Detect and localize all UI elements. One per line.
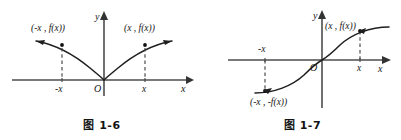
- x-axis-label: x: [181, 84, 185, 94]
- y-axis-arrow-icon: [100, 11, 108, 20]
- marked-point-right: [143, 43, 147, 47]
- point-label-left: (-x , f(x)): [31, 24, 65, 34]
- y-axis-arrow-icon: [318, 10, 326, 19]
- origin-label: O: [310, 63, 317, 73]
- x-axis-arrow-icon: [186, 76, 194, 84]
- figure-1-7-caption: 图 1-7: [202, 116, 401, 132]
- point-label-lower-left: (-x , -f(x)): [250, 98, 287, 108]
- figure-1-6-caption: 图 1-6: [2, 116, 202, 132]
- x-axis-label: x: [378, 64, 382, 74]
- x-tick-label-left: -x: [258, 45, 265, 55]
- point-label-right: (x , f(x)): [124, 24, 155, 34]
- y-axis-label: y: [313, 11, 317, 21]
- figure-1-7: (x , f(x)) (-x , -f(x)) y x O -x x 图 1-7: [200, 0, 401, 140]
- origin-label: O: [94, 84, 101, 94]
- marked-point-left: [60, 43, 64, 47]
- figure-1-6: (-x , f(x)) (x , f(x)) y x O -x x 图 1-6: [0, 0, 200, 140]
- x-tick-label-right: x: [142, 85, 146, 95]
- point-label-upper-right: (x , f(x)): [325, 22, 356, 32]
- curve-left-branch: [36, 41, 104, 80]
- curve-right-branch: [104, 41, 172, 80]
- x-axis-arrow-icon: [382, 56, 391, 64]
- x-tick-label-left: -x: [55, 85, 62, 95]
- x-tick-label-right: x: [357, 64, 361, 74]
- y-axis-label: y: [95, 12, 99, 22]
